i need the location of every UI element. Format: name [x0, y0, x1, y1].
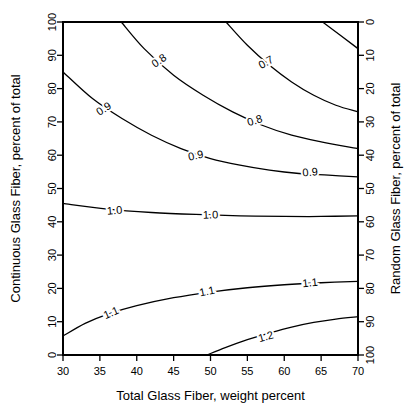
contour-label: 1.0 — [203, 208, 219, 221]
contour-line-0.8 — [121, 22, 358, 149]
y2-tick-label: 70 — [364, 249, 376, 261]
axis-titles: Total Glass Fiber, weight percentContinu… — [8, 74, 403, 403]
y2-tick-label: 60 — [364, 216, 376, 228]
y2-axis-tick-labels: 0102030405060708090100 — [364, 19, 376, 364]
x-tick-label: 65 — [315, 365, 327, 377]
contour-line-0.9 — [63, 72, 358, 177]
y-axis-title: Continuous Glass Fiber, percent of total — [8, 74, 23, 302]
contour-label: 0.9 — [302, 165, 318, 178]
y-tick-label: 90 — [46, 49, 58, 61]
contour-line-0.6 — [323, 22, 358, 49]
y-tick-label: 30 — [46, 249, 58, 261]
y-axis-tick-labels: 0102030405060708090100 — [46, 13, 58, 358]
contour-label: 0.8 — [149, 51, 168, 70]
contour-label: 1.1 — [198, 284, 215, 299]
y2-tick-label: 10 — [364, 49, 376, 61]
plot-frame — [63, 22, 358, 355]
x-tick-label: 55 — [241, 365, 253, 377]
chart-canvas: 303540455055606570 010203040506070809010… — [0, 0, 418, 418]
contour-label: 0.8 — [246, 112, 264, 128]
contour-lines — [63, 22, 358, 355]
contour-value-labels: 0.80.80.70.70.90.90.80.80.90.90.90.91.01… — [94, 51, 318, 344]
x-axis-tick-labels: 303540455055606570 — [57, 365, 364, 377]
y-tick-label: 80 — [46, 82, 58, 94]
x-tick-label: 60 — [278, 365, 290, 377]
y2-axis-title: Random Glass Fiber, percent of total — [388, 83, 403, 295]
y-tick-label: 0 — [46, 352, 58, 358]
contour-label: 1.2 — [257, 328, 275, 344]
y2-tick-label: 90 — [364, 316, 376, 328]
y2-tick-label: 40 — [364, 149, 376, 161]
x-tick-label: 35 — [94, 365, 106, 377]
plot-border — [63, 22, 358, 355]
x-tick-label: 45 — [168, 365, 180, 377]
contour-label: 1.1 — [302, 276, 318, 290]
x-axis-title: Total Glass Fiber, weight percent — [116, 388, 305, 403]
y-tick-label: 20 — [46, 282, 58, 294]
y2-tick-label: 30 — [364, 116, 376, 128]
y2-tick-label: 0 — [364, 19, 376, 25]
y-tick-label: 10 — [46, 316, 58, 328]
y-tick-label: 70 — [46, 116, 58, 128]
y2-tick-label: 100 — [364, 346, 376, 364]
x-tick-label: 70 — [352, 365, 364, 377]
x-tick-label: 30 — [57, 365, 69, 377]
y2-tick-label: 80 — [364, 282, 376, 294]
contour-label: 1.0 — [106, 204, 122, 217]
contour-label: 0.9 — [187, 148, 204, 163]
y-tick-label: 50 — [46, 182, 58, 194]
y-tick-label: 40 — [46, 216, 58, 228]
contour-label: 1.1 — [102, 304, 121, 321]
contour-line-0.7 — [226, 22, 358, 112]
y2-tick-label: 50 — [364, 182, 376, 194]
y2-tick-label: 20 — [364, 82, 376, 94]
y-tick-label: 60 — [46, 149, 58, 161]
contour-chart: 303540455055606570 010203040506070809010… — [0, 0, 418, 418]
x-tick-label: 50 — [204, 365, 216, 377]
contour-line-1.2 — [207, 317, 358, 355]
x-tick-label: 40 — [131, 365, 143, 377]
y-tick-label: 100 — [46, 13, 58, 31]
